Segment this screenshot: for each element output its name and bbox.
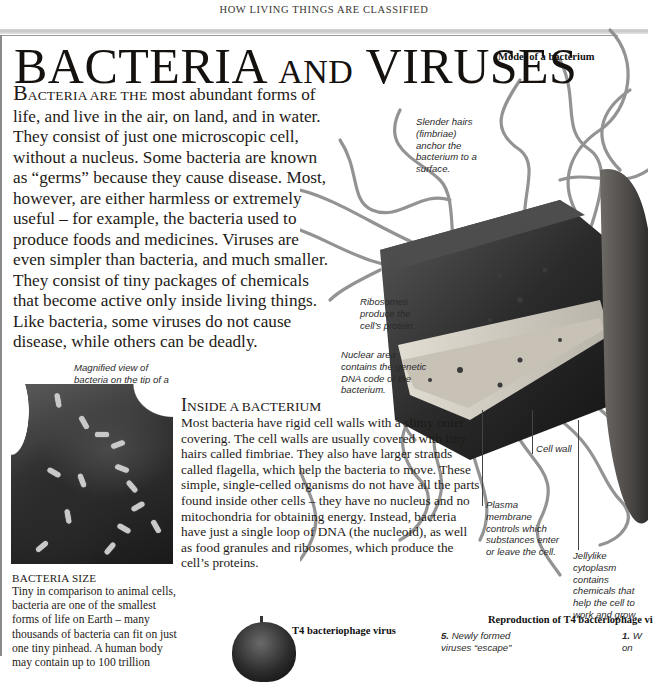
model-caption: Model of a bacterium bbox=[498, 51, 595, 62]
label-ribosomes: Ribosomes produce the cell’s protein. bbox=[360, 296, 420, 331]
t4-virus-image bbox=[232, 622, 296, 682]
t4-virus-caption: T4 bacteriophage virus bbox=[292, 625, 396, 636]
label-fimbriae: Slender hairs (fimbriae) anchor the bact… bbox=[416, 116, 478, 175]
frame-line-left bbox=[0, 35, 2, 656]
bacteria-size-body: Tiny in comparison to animal cells, bact… bbox=[12, 585, 182, 670]
step-1-number: 1. bbox=[622, 630, 630, 641]
step-5-number: 5. bbox=[441, 630, 449, 641]
inside-bacterium-heading: INSIDE A BACTERIUM bbox=[181, 395, 321, 417]
label-plasma-membrane: Plasma membrane controls which substance… bbox=[486, 499, 566, 558]
reproduction-step-5: 5. Newly formed viruses “escape” bbox=[441, 630, 521, 654]
intro-lead-cap: B bbox=[13, 80, 28, 105]
step-5-text: Newly formed viruses “escape” bbox=[441, 630, 511, 653]
bacteria-size-heading: BACTERIA SIZE bbox=[12, 572, 96, 584]
reproduction-caption: Reproduction of T4 bacteriophage vi bbox=[488, 614, 653, 625]
leader-plasma-membrane bbox=[482, 410, 483, 506]
intro-paragraph: BACTERIA ARE THE most abundant forms of … bbox=[13, 83, 328, 353]
sem-photo-bacteria-syringe bbox=[11, 384, 173, 564]
title-viruses: VIRUSES bbox=[366, 38, 578, 94]
inside-heading-rest: NSIDE A BACTERIUM bbox=[187, 399, 321, 414]
label-nuclear-area: Nuclear area contains the genetic DNA co… bbox=[341, 349, 433, 396]
intro-lead-smallcaps: ACTERIA ARE THE bbox=[28, 88, 148, 103]
inside-bacterium-body: Most bacteria have rigid cell walls with… bbox=[181, 415, 481, 571]
intro-text: most abundant forms of life, and live in… bbox=[13, 85, 328, 351]
label-cytoplasm: Jellylike cytoplasm contains chemicals t… bbox=[573, 550, 648, 621]
leader-cell-wall bbox=[532, 410, 533, 454]
reproduction-step-1: 1. W on bbox=[622, 630, 648, 654]
leader-cytoplasm bbox=[578, 420, 579, 550]
